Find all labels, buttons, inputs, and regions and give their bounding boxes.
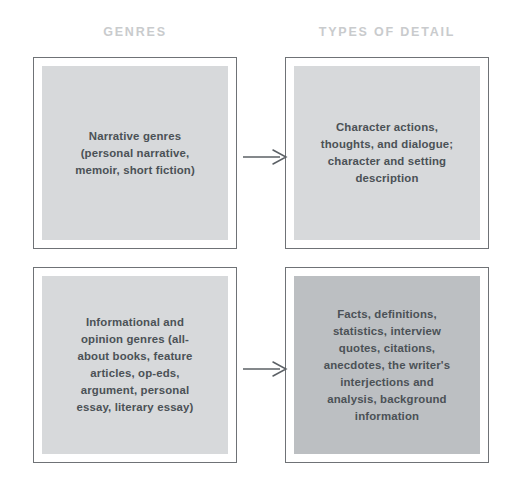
genre-box-text-row-1: Narrative genres (personal narrative, me…	[75, 128, 195, 179]
column-header-genres: GENRES	[33, 24, 237, 40]
detail-box-fill-row-1: Character actions, thoughts, and dialogu…	[294, 66, 480, 240]
column-header-types-of-detail: TYPES OF DETAIL	[285, 24, 489, 40]
detail-box-text-row-1: Character actions, thoughts, and dialogu…	[321, 119, 454, 187]
arrow-right-icon-row-2	[242, 358, 290, 380]
genre-box-fill-row-2: Informational and opinion genres (all- a…	[42, 276, 228, 454]
genre-box-row-2: Informational and opinion genres (all- a…	[33, 267, 237, 463]
genre-box-row-1: Narrative genres (personal narrative, me…	[33, 57, 237, 249]
detail-box-text-row-2: Facts, definitions, statistics, intervie…	[324, 306, 450, 425]
genre-box-fill-row-1: Narrative genres (personal narrative, me…	[42, 66, 228, 240]
detail-box-row-1: Character actions, thoughts, and dialogu…	[285, 57, 489, 249]
detail-box-fill-row-2: Facts, definitions, statistics, intervie…	[294, 276, 480, 454]
arrow-right-icon-row-1	[242, 146, 290, 168]
detail-box-row-2: Facts, definitions, statistics, intervie…	[285, 267, 489, 463]
genre-box-text-row-2: Informational and opinion genres (all- a…	[76, 314, 193, 416]
genres-to-details-diagram: GENRES TYPES OF DETAIL Narrative genres …	[0, 0, 511, 489]
